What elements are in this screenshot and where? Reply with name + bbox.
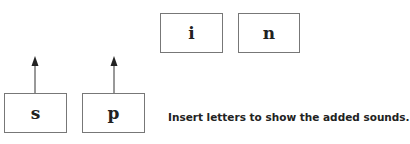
letter-box-n: n: [238, 13, 300, 53]
letter-box-s: s: [4, 93, 67, 133]
letter-s: s: [31, 103, 41, 123]
instruction-text: Insert letters to show the added sounds.: [168, 111, 410, 123]
letter-box-p: p: [82, 93, 145, 133]
letter-p: p: [108, 103, 120, 123]
letter-box-i: i: [160, 13, 223, 53]
arrow-up-icon: [108, 56, 120, 94]
letter-n: n: [263, 23, 275, 43]
arrow-up-icon: [29, 56, 41, 94]
letter-i: i: [188, 23, 194, 43]
